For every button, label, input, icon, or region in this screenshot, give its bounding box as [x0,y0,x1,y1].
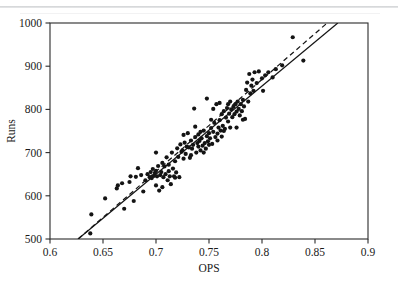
data-point [261,89,265,93]
data-point [225,106,229,110]
data-point [215,131,219,135]
data-point [169,182,173,186]
x-tick-label: 0.9 [361,246,376,258]
plot-canvas: 0.60.650.70.750.80.850.9 500600700800900… [0,0,398,282]
y-tick-label: 600 [25,190,43,202]
data-point [154,151,158,155]
data-point [224,116,228,120]
data-point [227,112,231,116]
x-tick-label: 0.6 [43,246,58,258]
data-point [128,174,132,178]
data-point [122,207,126,211]
data-point [136,166,140,170]
data-point [291,35,295,39]
data-point [199,136,203,140]
x-tick-label: 0.75 [199,246,219,258]
data-point [134,175,138,179]
data-point [175,146,179,150]
y-axis-title: Runs [5,119,17,143]
data-point [271,75,275,79]
data-point [167,163,171,167]
data-point [177,175,181,179]
data-point [210,142,214,146]
y-axis-tick-labels: 5006007008009001000 [19,17,42,245]
data-point [246,100,250,104]
data-point [141,189,145,193]
data-point [218,118,222,122]
data-point [166,178,170,182]
data-point [244,88,248,92]
x-axis-ticks [50,239,368,244]
data-point [252,70,256,74]
data-point [226,102,230,106]
data-point [238,113,242,117]
data-point [241,98,245,102]
data-point [202,151,206,155]
data-point [120,181,124,185]
data-point [208,136,212,140]
data-point [255,81,259,85]
data-point [245,81,249,85]
data-point [234,125,238,129]
data-point [215,138,219,142]
data-point [191,143,195,147]
data-point [257,69,261,73]
data-point [280,63,284,67]
data-point [178,142,182,146]
data-point [251,89,255,93]
plot-frame [50,23,368,239]
x-tick-label: 0.8 [255,246,270,258]
regression-line [78,23,338,239]
data-point [274,67,278,71]
data-point [170,151,174,155]
scan-artifact-band [0,6,398,8]
data-point [211,107,215,111]
y-tick-label: 800 [25,103,43,115]
data-point [266,70,270,74]
data-point [89,212,93,216]
data-point [116,183,120,187]
data-point [127,180,131,184]
data-point [180,148,184,152]
x-axis-tick-labels: 0.60.650.70.750.80.850.9 [43,246,376,258]
data-point [132,199,136,203]
data-point [157,189,161,193]
data-point [156,164,160,168]
data-point [143,178,147,182]
data-point [250,77,254,81]
data-point [249,84,253,88]
data-point [165,155,169,159]
data-point [222,109,226,113]
data-point [228,125,232,129]
data-point [160,185,164,189]
data-point [163,172,167,176]
data-points-group [88,35,305,235]
data-point [171,166,175,170]
data-point [183,141,187,145]
data-point [139,173,143,177]
data-point [205,97,209,101]
data-point [220,135,224,139]
data-point [159,170,163,174]
data-point [173,159,177,163]
data-point [193,125,197,129]
y-tick-label: 500 [25,233,43,245]
y-tick-label: 1000 [19,17,42,29]
data-point [103,196,107,200]
data-point [154,183,158,187]
data-point [198,130,202,134]
data-point [301,58,305,62]
data-point [192,106,196,110]
data-point [176,155,180,159]
fit-lines-group [78,23,338,239]
y-tick-label: 700 [25,147,43,159]
data-point [241,118,245,122]
data-point [247,72,251,76]
data-point [88,231,92,235]
data-point [190,147,194,151]
data-point [211,130,215,134]
data-point [209,126,213,130]
data-point [186,131,190,135]
data-point [204,147,208,151]
data-point [218,101,222,105]
